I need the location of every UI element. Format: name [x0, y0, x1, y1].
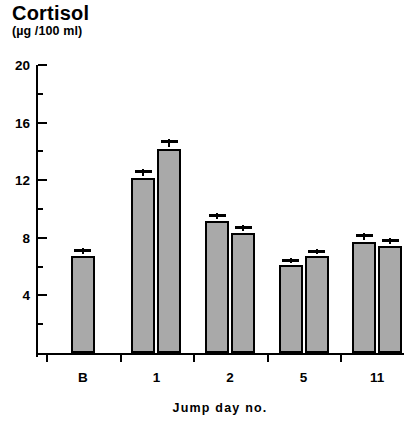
error-bar-cap	[356, 234, 373, 237]
y-tick-major	[38, 122, 47, 124]
x-tick-label-11: 11	[370, 370, 384, 385]
y-tick-minor	[38, 266, 43, 268]
error-bar-cap	[161, 140, 178, 143]
y-tick-label: 4	[22, 288, 30, 303]
bar-11-1[interactable]	[378, 246, 402, 353]
x-tick	[267, 355, 269, 362]
y-tick-label: 12	[15, 173, 30, 188]
error-bar-cap	[235, 226, 252, 229]
y-axis-line	[36, 65, 38, 357]
y-tick-major	[38, 64, 47, 66]
bar-11-0[interactable]	[352, 242, 376, 353]
cortisol-bar-chart: Cortisol (µg /100 ml) 48121620 B12511 Ju…	[0, 0, 414, 421]
bar-2-0[interactable]	[205, 221, 229, 353]
y-tick-major	[38, 237, 47, 239]
y-tick-major	[38, 294, 47, 296]
plot-area: 48121620 B12511 Jump day no.	[36, 55, 404, 355]
y-tick-minor	[38, 150, 43, 152]
x-tick-label-2: 2	[226, 370, 234, 385]
x-tick-label-5: 5	[300, 370, 308, 385]
error-bar-cap	[282, 259, 299, 262]
y-tick-minor	[38, 323, 43, 325]
x-tick-label-B: B	[78, 370, 88, 385]
error-bar-cap	[209, 214, 226, 217]
y-tick-label: 16	[15, 115, 30, 130]
x-tick	[120, 355, 122, 362]
x-tick	[340, 355, 342, 362]
error-bar-cap	[382, 239, 399, 242]
y-tick-minor	[38, 93, 43, 95]
y-tick-minor	[38, 208, 43, 210]
error-bar-cap	[74, 249, 91, 252]
bar-5-0[interactable]	[279, 265, 303, 353]
bar-1-0[interactable]	[131, 178, 155, 353]
chart-subtitle-units: (µg /100 ml)	[12, 24, 82, 38]
bar-2-1[interactable]	[231, 233, 255, 353]
bar-5-1[interactable]	[305, 256, 329, 353]
bar-1-1[interactable]	[157, 149, 181, 353]
bar-B-0[interactable]	[71, 256, 95, 353]
x-axis-title: Jump day no.	[36, 401, 404, 415]
x-tick-label-1: 1	[153, 370, 161, 385]
y-tick-label: 20	[15, 58, 30, 73]
x-tick	[193, 355, 195, 362]
y-tick-major	[38, 179, 47, 181]
y-tick-label: 8	[22, 230, 30, 245]
x-tick	[46, 355, 48, 362]
error-bar-cap	[308, 250, 325, 253]
x-axis-line	[36, 353, 404, 355]
chart-title: Cortisol	[12, 2, 89, 24]
error-bar-cap	[135, 170, 152, 173]
